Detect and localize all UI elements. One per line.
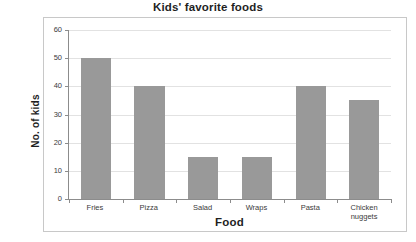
y-axis-tick-label: 50: [54, 54, 62, 62]
bar-slot: [123, 30, 177, 199]
bar[interactable]: [134, 86, 164, 199]
y-axis-tick-label: 10: [54, 167, 62, 175]
bar-slot: [176, 30, 230, 199]
bar[interactable]: [81, 58, 111, 199]
bar[interactable]: [188, 157, 218, 199]
y-axis-tick-label: 30: [54, 111, 62, 119]
bar[interactable]: [296, 86, 326, 199]
plot-area: 0102030405060: [68, 30, 391, 200]
x-axis-title: Food: [68, 216, 391, 228]
y-axis-tick-label: 20: [54, 139, 62, 147]
bar-chart-figure: Kids' favorite foods No. of kids 0102030…: [0, 0, 416, 242]
x-axis-tick: [391, 199, 392, 203]
y-axis-tick-label: 60: [54, 26, 62, 34]
bars-group: [69, 30, 391, 199]
bar-slot: [69, 30, 123, 199]
bar-slot: [284, 30, 338, 199]
y-axis-tick-label: 40: [54, 83, 62, 91]
bar-slot: [230, 30, 284, 199]
bar[interactable]: [349, 100, 379, 199]
chart-title: Kids' favorite foods: [0, 1, 416, 13]
y-axis-title: No. of kids: [30, 94, 41, 147]
y-axis-tick-label: 0: [58, 195, 62, 203]
bar-slot: [337, 30, 391, 199]
bar[interactable]: [242, 157, 272, 199]
